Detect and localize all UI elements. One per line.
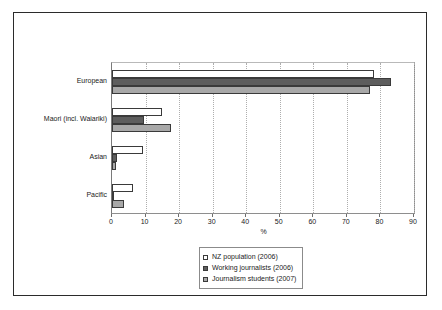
chart-figure: EuropeanMaori (incl. Waiariki)AsianPacif… [0, 0, 442, 310]
category-label: Maori (incl. Waiariki) [21, 115, 107, 123]
x-tick [178, 214, 179, 217]
bar-row [112, 146, 416, 154]
x-tick-label: 40 [235, 218, 255, 226]
bar-row [112, 162, 416, 170]
bar-row [112, 124, 416, 132]
category-label: European [21, 77, 107, 85]
legend-label: NZ population (2006) [212, 253, 278, 261]
bar-row [112, 192, 416, 200]
bar-row [112, 70, 416, 78]
legend-item[interactable]: NZ population (2006) [203, 252, 296, 262]
x-tick-label: 90 [403, 218, 423, 226]
bar-group [112, 177, 414, 215]
bar [112, 70, 374, 78]
bar [112, 146, 143, 154]
plot-area [111, 62, 415, 214]
bar [112, 116, 144, 124]
x-tick-label: 50 [269, 218, 289, 226]
bar [112, 124, 171, 132]
legend-label: Journalism students (2007) [212, 275, 296, 283]
chart-legend: NZ population (2006)Working journalists … [199, 247, 303, 289]
x-tick [212, 214, 213, 217]
x-tick-label: 30 [202, 218, 222, 226]
bar-row [112, 78, 416, 86]
x-tick [379, 214, 380, 217]
category-label: Asian [21, 153, 107, 161]
bar-row [112, 200, 416, 208]
category-label: Pacific [21, 191, 107, 199]
legend-item[interactable]: Journalism students (2007) [203, 274, 296, 284]
x-tick-label: 20 [168, 218, 188, 226]
bar-row [112, 184, 416, 192]
x-tick [245, 214, 246, 217]
bar-row [112, 86, 416, 94]
legend-label: Working journalists (2006) [212, 264, 293, 272]
x-tick-label: 0 [101, 218, 121, 226]
legend-item[interactable]: Working journalists (2006) [203, 263, 296, 273]
bar-row [112, 154, 416, 162]
bar-group [112, 101, 414, 139]
bar-group [112, 63, 414, 101]
bar [112, 108, 162, 116]
bar-row [112, 108, 416, 116]
x-tick-label: 60 [302, 218, 322, 226]
x-tick-label: 10 [135, 218, 155, 226]
y-axis-category-labels: EuropeanMaori (incl. Waiariki)AsianPacif… [18, 62, 107, 214]
bar [112, 192, 114, 200]
bar-row [112, 116, 416, 124]
bar [112, 78, 391, 86]
x-tick [279, 214, 280, 217]
x-tick [145, 214, 146, 217]
bar [112, 184, 133, 192]
figure-frame: EuropeanMaori (incl. Waiariki)AsianPacif… [13, 12, 427, 296]
bar [112, 86, 370, 94]
x-tick [312, 214, 313, 217]
bar [112, 162, 116, 170]
x-axis-title: % [111, 228, 416, 235]
bar [112, 154, 117, 162]
bar [112, 200, 124, 208]
bar-group [112, 139, 414, 177]
legend-swatch-icon [203, 266, 208, 271]
x-tick [346, 214, 347, 217]
x-tick-label: 80 [369, 218, 389, 226]
x-tick [413, 214, 414, 217]
legend-swatch-icon [203, 255, 208, 260]
x-tick-label: 70 [336, 218, 356, 226]
x-tick [111, 214, 112, 217]
legend-swatch-icon [203, 277, 208, 282]
